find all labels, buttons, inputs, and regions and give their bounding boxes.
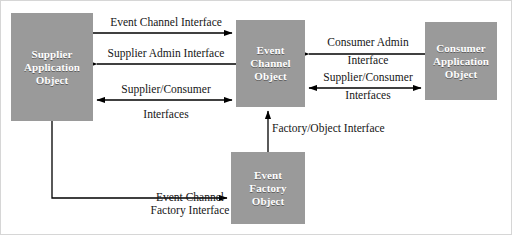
node-label-line: Application	[24, 61, 80, 74]
node-supplier-application-object[interactable]: Supplier Application Object	[11, 13, 93, 121]
edge-label-supplier-consumer-interfaces-right: Supplier/Consumer Interfaces	[310, 71, 426, 102]
node-consumer-application-object[interactable]: Consumer Application Object	[425, 22, 497, 100]
node-event-channel-object[interactable]: Event Channel Object	[236, 20, 305, 107]
edge-label-line: Supplier Admin Interface	[96, 47, 236, 60]
node-label-line: Supplier	[31, 48, 72, 61]
node-label-line: Event	[257, 44, 285, 57]
node-label-line: Application	[433, 55, 489, 68]
edge-label-event-channel-factory-interface: Event Channel Factory Interface	[120, 191, 260, 217]
edge-label-line: Supplier/Consumer	[96, 83, 236, 96]
edge-label-line: Event Channel Interface	[96, 16, 236, 29]
edge-label-line: Supplier/Consumer	[310, 71, 426, 84]
connector-event-channel-factory-interface	[52, 121, 227, 198]
edge-label-supplier-admin-interface: Supplier Admin Interface	[96, 47, 236, 60]
node-label-line: Object	[36, 74, 68, 87]
edge-label-line: Interfaces	[96, 108, 236, 121]
node-label-line: Event	[254, 169, 282, 182]
edge-label-event-channel-interface: Event Channel Interface	[96, 16, 236, 29]
node-label-line: Object	[254, 70, 286, 83]
edge-label-line: Interfaces	[310, 89, 426, 102]
node-label-line: Consumer	[436, 42, 486, 55]
edge-label-line: Interface	[312, 54, 424, 67]
node-label-line: Channel	[250, 57, 290, 70]
edge-label-line: Consumer Admin	[312, 36, 424, 49]
edge-label-consumer-admin-interface: Consumer Admin Interface	[312, 36, 424, 67]
node-label-line: Object	[445, 68, 477, 81]
edge-label-line: Event Channel	[120, 191, 260, 204]
diagram-canvas: Supplier Application Object Event Channe…	[0, 0, 512, 235]
edge-label-line: Factory/Object Interface	[272, 122, 408, 135]
edge-label-line: Factory Interface	[120, 204, 260, 217]
edge-label-factory-object-interface: Factory/Object Interface	[272, 122, 408, 135]
edge-label-supplier-consumer-interfaces-left: Supplier/Consumer Interfaces	[96, 83, 236, 121]
